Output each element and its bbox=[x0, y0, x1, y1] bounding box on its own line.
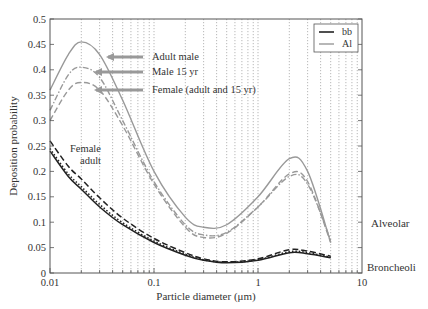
y-tick-label: 0.25 bbox=[28, 141, 46, 152]
arrow-head-icon bbox=[106, 53, 114, 61]
y-tick-label: 0.4 bbox=[33, 64, 47, 75]
y-tick-label: 0.15 bbox=[28, 191, 46, 202]
legend-bb-label: bb bbox=[342, 26, 352, 37]
x-axis-ticks: 0.010.1110 bbox=[41, 268, 367, 288]
annotation-female-adult-1: Female bbox=[70, 143, 101, 154]
annotation-adult-male: Adult male bbox=[152, 51, 199, 62]
series-line bbox=[50, 151, 331, 263]
legend: bb Al bbox=[314, 24, 358, 52]
annotation-female: Female (adult and 15 yr) bbox=[152, 84, 256, 96]
annotation-male-15: Male 15 yr bbox=[152, 66, 199, 77]
y-tick-label: 0.1 bbox=[33, 217, 46, 228]
annotations: Adult male Male 15 yr Female (adult and … bbox=[70, 51, 256, 166]
x-tick-label: 0.01 bbox=[41, 277, 59, 288]
y-tick-label: 0.3 bbox=[33, 115, 46, 126]
x-tick-label: 0.1 bbox=[147, 277, 160, 288]
deposition-chart: 00.050.10.150.20.250.30.350.40.450.5 0.0… bbox=[0, 0, 428, 309]
x-tick-label: 10 bbox=[357, 277, 368, 288]
y-tick-label: 0.35 bbox=[28, 90, 46, 101]
alveolar-label: Alveolar bbox=[371, 217, 410, 229]
legend-al-label: Al bbox=[342, 38, 352, 49]
x-tick-label: 1 bbox=[255, 277, 260, 288]
y-axis-label: Deposition probability bbox=[7, 96, 19, 196]
x-axis-label: Particle diameter (μm) bbox=[156, 290, 256, 303]
annotation-female-adult-2: adult bbox=[80, 155, 101, 166]
arrow-head-icon bbox=[94, 86, 102, 94]
y-tick-label: 0.2 bbox=[33, 166, 46, 177]
y-tick-label: 0.45 bbox=[28, 39, 46, 50]
y-tick-label: 0.05 bbox=[28, 242, 46, 253]
broncheoli-label: Broncheoli bbox=[367, 261, 416, 273]
y-tick-label: 0.5 bbox=[33, 14, 46, 25]
